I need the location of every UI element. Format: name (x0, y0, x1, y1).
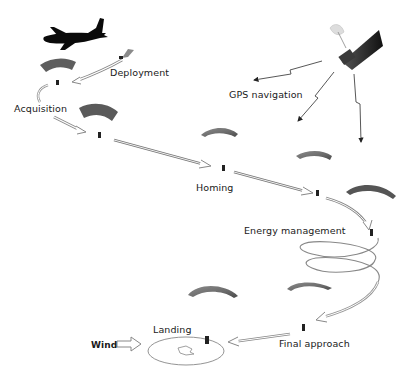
parafoil-flight-phases-diagram: Deployment Acquisition GPS navigation Ho… (0, 0, 411, 381)
gps-signal-arrows (254, 61, 361, 142)
label-final-approach: Final approach (279, 338, 350, 349)
parafoil-canopy (287, 283, 332, 292)
parafoil-canopy (188, 286, 238, 298)
label-acquisition: Acquisition (14, 103, 67, 114)
payload-icon (316, 190, 319, 196)
deployed-package-icon (119, 49, 134, 59)
cargo-aircraft-icon (43, 18, 108, 50)
payload-icon (370, 229, 373, 236)
label-wind: Wind (91, 340, 117, 350)
parafoil-canopy (40, 59, 76, 72)
label-deployment: Deployment (110, 67, 169, 78)
parafoil-canopy (296, 151, 332, 160)
payload-icon (302, 324, 305, 331)
label-energy-management: Energy management (244, 225, 346, 236)
payload-icon (56, 80, 59, 85)
payload-icon (222, 165, 225, 171)
payload-icon (98, 132, 101, 138)
wind-arrow (117, 337, 141, 351)
gps-satellite-icon (330, 25, 383, 70)
label-landing: Landing (153, 324, 192, 335)
label-homing: Homing (196, 182, 234, 193)
energy-management-spiral (300, 238, 379, 318)
parafoil-canopy (79, 104, 118, 121)
label-gps-navigation: GPS navigation (229, 89, 303, 100)
parafoil-canopy (346, 185, 396, 199)
landing-target-icon (178, 346, 194, 355)
parafoil-canopy (201, 128, 238, 137)
payload-icon (205, 336, 209, 344)
